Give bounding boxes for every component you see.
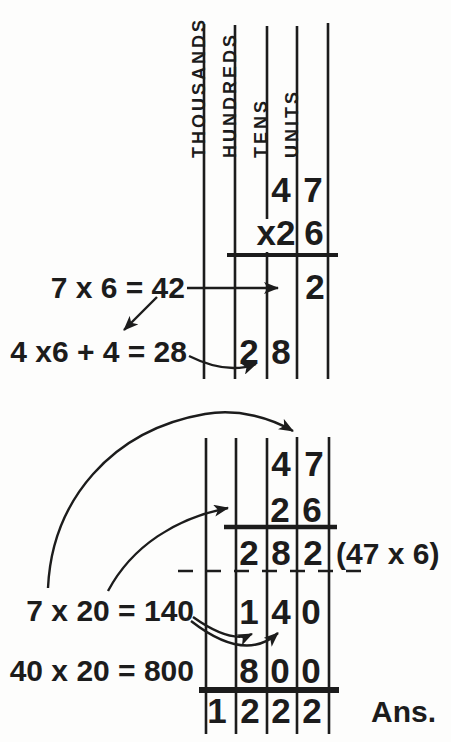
bottom-multiplier-tens-digit: 2 [270,490,289,530]
partial2-tens-digit: 4 [271,592,290,632]
partial1-tens-digit: 8 [271,533,290,573]
partial1-hundreds-digit: 2 [239,533,258,573]
top-multiplier-units-digit: 6 [304,213,323,253]
column-label-units: UNITS [282,89,302,158]
answer-hundreds-digit: 2 [240,691,259,731]
top-partial-hundreds-digit: 2 [239,332,258,372]
column-label-hundreds: HUNDREDS [220,32,240,158]
partial2-hundreds-digit: 1 [239,592,258,632]
top-partial-tens-digit: 8 [271,332,290,372]
bottom-multiplicand-tens-digit: 4 [271,444,290,484]
partial3-tens-digit: 0 [270,651,289,691]
partial2-units-digit: 0 [301,592,320,632]
top-multiplicand-tens-digit: 4 [271,170,290,210]
answer-tens-digit: 2 [271,691,290,731]
column-label-tens: TENS [251,98,271,158]
answer-thousands-digit: 1 [207,691,226,731]
partial3-units-digit: 0 [301,651,320,691]
top-multiplicand-units-digit: 7 [303,170,322,210]
top-partial-units-digit: 2 [305,267,324,307]
bottom-multiplier-units-digit: 6 [302,490,321,530]
note-7x6-equals-42: 7 x 6 = 42 [51,271,185,305]
note-7x20-equals-140: 7 x 20 = 140 [26,594,194,628]
top-multiplier-sign-tens-digit: x2 [257,213,296,253]
answer-units-digit: 2 [302,691,321,731]
column-label-thousands: THOUSANDS [189,17,209,158]
note-40x20-equals-800: 40 x 20 = 800 [10,654,194,688]
partial1-units-digit: 2 [303,533,322,573]
arc-7x20-to-tens-multiplier [108,508,228,591]
partial1-note-47x6: (47 x 6) [336,537,439,571]
long-multiplication-worked-example: THOUSANDS HUNDREDS TENS UNITS 4 7 x2 6 2… [0,0,451,742]
answer-label: Ans. [371,695,436,729]
bottom-multiplicand-units-digit: 7 [304,444,323,484]
partial3-hundreds-digit: 8 [239,651,258,691]
note-4x6-plus-4-equals-28: 4 x6 + 4 = 28 [10,335,187,369]
